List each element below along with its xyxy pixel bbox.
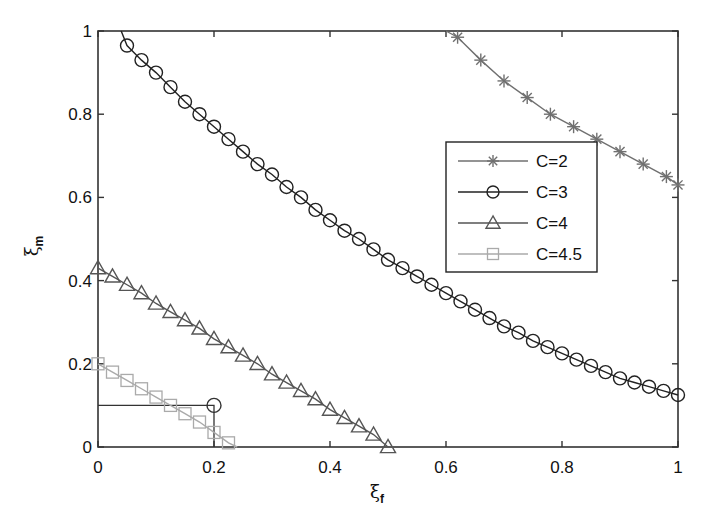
- x-tick-label: 0.8: [550, 458, 574, 477]
- legend: C=2C=3C=4C=4.5: [446, 142, 597, 272]
- series-c-4: [91, 261, 396, 453]
- guide-line: [98, 398, 221, 447]
- legend-label: C=3: [536, 183, 568, 202]
- asterisk-marker-icon: [474, 54, 487, 67]
- asterisk-marker-icon: [567, 120, 580, 133]
- x-tick-label: 0: [93, 458, 102, 477]
- y-tick-label: 0: [83, 438, 92, 457]
- asterisk-marker-icon: [521, 91, 534, 104]
- x-tick-label: 0.2: [202, 458, 226, 477]
- asterisk-marker-icon: [637, 158, 650, 171]
- asterisk-marker-icon: [614, 145, 627, 158]
- x-tick-label: 0.6: [434, 458, 458, 477]
- chart: 00.20.40.60.8100.20.40.60.81 C=2C=3C=4C=…: [0, 0, 701, 527]
- legend-label: C=4: [536, 214, 568, 233]
- x-axis-label: ξf: [370, 481, 385, 506]
- legend-label: C=4.5: [536, 245, 582, 264]
- x-tick-label: 1: [673, 458, 682, 477]
- series-c-4-5: [92, 358, 237, 449]
- y-axis-label: ξm: [21, 236, 46, 257]
- asterisk-marker-icon: [544, 108, 557, 121]
- y-tick-label: 0.6: [68, 188, 92, 207]
- asterisk-marker-icon: [672, 178, 685, 191]
- asterisk-marker-icon: [487, 155, 499, 167]
- legend-label: C=2: [536, 152, 568, 171]
- triangle-marker-icon: [381, 440, 396, 453]
- x-tick-label: 0.4: [318, 458, 342, 477]
- asterisk-marker-icon: [451, 31, 464, 44]
- asterisk-marker-icon: [660, 170, 673, 183]
- y-tick-label: 1: [83, 22, 92, 41]
- y-tick-label: 0.8: [68, 105, 92, 124]
- series-c-3: [121, 31, 685, 402]
- y-tick-label: 0.4: [68, 272, 92, 291]
- y-tick-label: 0.2: [68, 355, 92, 374]
